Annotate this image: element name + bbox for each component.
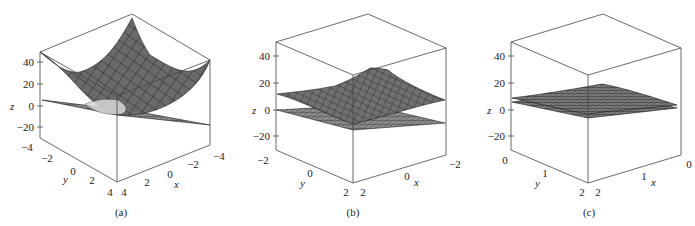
panel-c: 40 20 0 −20 z 0 1 2 y 2 1 0 x (c) — [486, 14, 692, 219]
z-tick-0: 0 — [265, 104, 271, 116]
y-tick: 4 — [107, 186, 113, 198]
y-tick: 0 — [70, 165, 76, 177]
caption-c: (c) — [583, 206, 596, 219]
y-tick: 1 — [542, 167, 548, 179]
z-axis-label: z — [486, 104, 492, 116]
paraboloid-inner-light — [85, 99, 126, 114]
x-tick: 4 — [121, 186, 127, 198]
y-axis-b: −2 0 2 y — [257, 154, 349, 198]
z-axis-a: 40 20 0 −20 z — [9, 56, 43, 133]
z-tick-20: 20 — [494, 77, 506, 89]
x-tick: 0 — [167, 168, 173, 180]
z-tick-40: 40 — [23, 56, 35, 68]
z-tick-neg20: −20 — [488, 130, 506, 142]
z-axis-c: 40 20 0 −20 z — [486, 50, 514, 142]
y-tick: −2 — [257, 154, 269, 166]
z-tick-0: 0 — [29, 100, 35, 112]
y-axis-label: y — [62, 173, 68, 185]
caption-a: (a) — [115, 206, 128, 219]
figure-three-panels: 40 20 0 −20 z −4 −2 0 2 4 y 4 2 0 −2 −4 … — [0, 0, 695, 226]
y-axis-label: y — [534, 177, 540, 189]
x-axis-label: x — [650, 176, 656, 188]
z-axis-label: z — [9, 100, 15, 112]
z-tick-neg20: −20 — [253, 130, 271, 142]
z-tick-0: 0 — [500, 104, 506, 116]
x-tick: 2 — [595, 186, 601, 198]
z-tick-40: 40 — [259, 50, 271, 62]
y-tick: 2 — [579, 186, 585, 198]
x-tick: 2 — [144, 176, 150, 188]
x-tick: −4 — [213, 150, 225, 162]
z-tick-neg20: −20 — [17, 121, 35, 133]
x-axis-label: x — [173, 178, 179, 190]
panel-a: 40 20 0 −20 z −4 −2 0 2 4 y 4 2 0 −2 −4 … — [9, 14, 225, 219]
x-axis-b: 2 0 −2 x — [360, 158, 461, 198]
x-tick: 0 — [686, 158, 692, 170]
y-axis-a: −4 −2 0 2 4 y — [21, 141, 113, 198]
z-tick-40: 40 — [494, 50, 506, 62]
z-axis-b: 40 20 0 −20 z — [251, 50, 279, 142]
caption-b: (b) — [347, 206, 360, 219]
z-axis-label: z — [251, 104, 257, 116]
y-axis-label: y — [299, 177, 305, 189]
x-tick: −2 — [187, 158, 199, 170]
x-tick: 1 — [641, 170, 647, 182]
x-axis-c: 2 1 0 x — [595, 158, 692, 198]
z-tick-20: 20 — [23, 78, 35, 90]
y-tick: 2 — [343, 186, 349, 198]
y-tick: −2 — [41, 152, 53, 164]
x-tick: 2 — [360, 186, 366, 198]
y-tick: −4 — [21, 141, 33, 153]
x-tick: 0 — [404, 170, 410, 182]
x-axis-label: x — [413, 176, 419, 188]
x-tick: −2 — [449, 158, 461, 170]
z-tick-20: 20 — [259, 77, 271, 89]
panel-b: 40 20 0 −20 z −2 0 2 y 2 0 −2 x (b) — [251, 14, 461, 219]
y-tick: 2 — [89, 174, 95, 186]
y-tick: 0 — [502, 154, 508, 166]
y-tick: 0 — [307, 167, 313, 179]
